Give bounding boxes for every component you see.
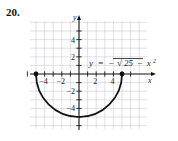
semicircle-graph: −4−22442−2−4 x y y = − √ 25 − x 2: [0, 0, 178, 141]
y-tick-label: 4: [71, 36, 75, 45]
figure-problem-20: 20. −4−22442−2−4 x y y = − √ 25 − x 2: [0, 0, 178, 141]
grid-lines: [30, 21, 147, 129]
eqn-radical-sign: √: [117, 58, 122, 68]
eqn-y: y: [88, 58, 93, 68]
svg-text:y = −: y = − √ 25 − x 2: [88, 58, 156, 68]
eqn-radicand-minus: −: [137, 58, 142, 68]
x-tick-label: 4: [110, 77, 114, 86]
eqn-minus: −: [109, 58, 114, 68]
endpoint-dot: [120, 72, 125, 77]
y-axis-arrow: [77, 15, 81, 20]
y-axis-label: y: [72, 13, 77, 22]
y-tick-label: 2: [71, 53, 75, 62]
endpoint-dot: [34, 72, 39, 77]
y-tick-label: −2: [66, 87, 75, 96]
eqn-radicand-var: x: [146, 58, 151, 68]
equation-label: y = − √ 25 − x 2: [88, 58, 156, 68]
x-axis-arrow: [151, 72, 156, 76]
eqn-radicand-left: 25: [124, 58, 134, 68]
x-tick-label: 2: [93, 77, 97, 86]
problem-number: 20.: [6, 6, 20, 18]
x-tick-label: −2: [57, 77, 66, 86]
eqn-radicand-exponent: 2: [153, 58, 156, 64]
eqn-equals: =: [98, 58, 103, 68]
x-tick-label: −4: [39, 77, 48, 86]
y-tick-label: −4: [66, 104, 75, 113]
x-axis-label: x: [147, 76, 152, 85]
